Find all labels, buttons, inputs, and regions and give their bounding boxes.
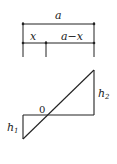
triangle-figure — [23, 70, 94, 139]
label-origin: 0 — [39, 104, 45, 115]
diagram: a x a−x 0 h2 h1 — [0, 0, 117, 164]
label-h1: h1 — [7, 121, 19, 135]
label-h2: h2 — [98, 87, 110, 101]
label-a: a — [55, 9, 62, 22]
diagonal — [23, 70, 94, 139]
label-x: x — [30, 30, 37, 43]
label-a-minus-x: a−x — [61, 30, 84, 43]
